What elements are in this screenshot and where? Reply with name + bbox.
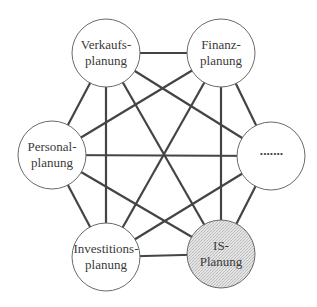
node-label: IS- [213,238,229,253]
node-label: Investitions- [74,241,139,256]
node-finanz: Finanz-planung [187,19,255,87]
node-label: planung [31,155,73,170]
node-label: ······· [259,146,283,161]
node-verkauf: Verkaufs-planung [72,19,140,87]
node-label: planung [200,53,242,68]
node-label: planung [85,257,127,272]
node-is: IS-Planung [187,220,255,288]
node-label: Finanz- [201,37,241,52]
node-other: ······· [237,122,305,190]
node-label: Planung [200,254,243,269]
planning-network-diagram: Verkaufs-planungFinanz-planungPersonal-p… [0,0,317,307]
node-personal: Personal-planung [18,121,86,189]
node-label: planung [85,53,127,68]
node-investition: Investitions-planung [72,223,140,291]
node-label: Personal- [27,139,76,154]
node-label: Verkaufs- [81,37,132,52]
